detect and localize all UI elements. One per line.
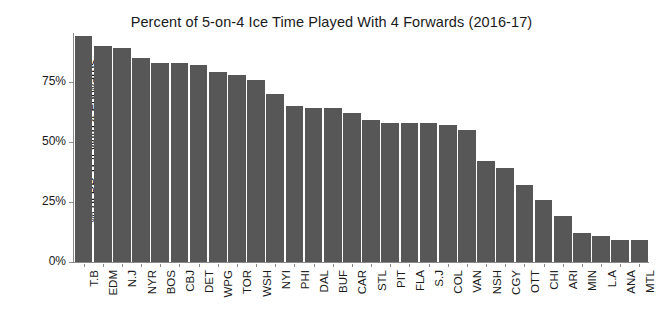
y-tick-label: 50% xyxy=(0,134,66,148)
bar xyxy=(477,161,495,262)
x-tick-mark xyxy=(333,264,334,267)
x-tick-mark xyxy=(179,264,180,267)
x-tick-label: VAN xyxy=(471,270,483,293)
bar xyxy=(381,123,399,262)
x-tick-label: MTL xyxy=(644,270,656,293)
x-tick-label: PHI xyxy=(299,270,311,289)
x-tick-mark xyxy=(429,264,430,267)
bar xyxy=(190,65,208,262)
bar xyxy=(362,120,380,262)
x-tick-label: BUF xyxy=(337,270,349,293)
x-tick-mark xyxy=(505,264,506,267)
x-tick-label: NSH xyxy=(491,270,503,294)
x-tick-mark xyxy=(639,264,640,267)
x-tick-mark xyxy=(409,264,410,267)
x-tick-mark xyxy=(103,264,104,267)
bar xyxy=(113,48,131,262)
bar xyxy=(458,130,476,262)
bar xyxy=(209,72,227,262)
x-tick-mark xyxy=(620,264,621,267)
x-tick-mark xyxy=(544,264,545,267)
x-tick-mark xyxy=(486,264,487,267)
x-tick-label: CAR xyxy=(356,270,368,294)
chart-figure: Percent of 5-on-4 Ice Time Played With 4… xyxy=(0,0,663,317)
x-tick-label: DAL xyxy=(318,270,330,292)
bar xyxy=(94,46,112,262)
x-tick-label: MIN xyxy=(586,270,598,291)
x-tick-label: CBJ xyxy=(184,270,196,292)
x-tick-mark xyxy=(294,264,295,267)
x-tick-mark xyxy=(582,264,583,267)
x-tick-label: TOR xyxy=(241,270,253,294)
x-tick-mark xyxy=(390,264,391,267)
bar xyxy=(631,240,649,262)
x-tick-label: NYR xyxy=(146,270,158,294)
x-tick-mark xyxy=(237,264,238,267)
x-tick-mark xyxy=(467,264,468,267)
bar xyxy=(496,168,514,262)
x-tick-mark xyxy=(371,264,372,267)
bar xyxy=(535,200,553,262)
bar xyxy=(266,94,284,262)
x-tick-label: T.B xyxy=(88,270,100,287)
bar xyxy=(401,123,419,262)
bar xyxy=(573,233,591,262)
x-tick-mark xyxy=(275,264,276,267)
x-tick-mark xyxy=(601,264,602,267)
x-tick-mark xyxy=(122,264,123,267)
bar xyxy=(286,106,304,262)
x-tick-mark xyxy=(524,264,525,267)
x-tick-label: L.A xyxy=(606,270,618,287)
y-tick-mark xyxy=(69,262,73,263)
bar xyxy=(439,125,457,262)
x-tick-mark xyxy=(256,264,257,267)
x-tick-label: S.J xyxy=(433,270,445,287)
y-tick-label: 25% xyxy=(0,194,66,208)
bar xyxy=(516,185,534,262)
x-tick-label: CGY xyxy=(510,270,522,295)
x-tick-label: N.J xyxy=(126,270,138,287)
bar xyxy=(305,108,323,262)
x-tick-label: ARI xyxy=(567,270,579,289)
x-tick-label: DET xyxy=(203,270,215,293)
x-tick-label: COL xyxy=(452,270,464,294)
y-tick-mark xyxy=(69,202,73,203)
bar xyxy=(132,58,150,262)
bar xyxy=(611,240,629,262)
bar-series xyxy=(74,33,649,262)
x-tick-mark xyxy=(314,264,315,267)
bar xyxy=(554,216,572,262)
x-tick-label: PIT xyxy=(395,270,407,288)
x-tick-mark xyxy=(160,264,161,267)
x-tick-label: CHI xyxy=(548,270,560,290)
x-tick-mark xyxy=(141,264,142,267)
x-tick-mark xyxy=(84,264,85,267)
bar xyxy=(592,236,610,262)
x-tick-label: EDM xyxy=(107,270,119,296)
bar xyxy=(228,75,246,262)
bar xyxy=(324,108,342,262)
x-tick-mark xyxy=(448,264,449,267)
bar xyxy=(420,123,438,262)
x-tick-mark xyxy=(352,264,353,267)
x-tick-label: BOS xyxy=(165,270,177,294)
x-axis-line xyxy=(73,262,649,263)
x-tick-mark xyxy=(199,264,200,267)
x-tick-label: STL xyxy=(376,270,388,291)
y-tick-label: 75% xyxy=(0,74,66,88)
x-axis-labels: T.BEDMN.JNYRBOSCBJDETWPGTORWSHNYIPHIDALB… xyxy=(74,264,649,317)
x-tick-label: ANA xyxy=(625,270,637,294)
bar xyxy=(247,80,265,262)
x-tick-label: WPG xyxy=(222,270,234,297)
y-tick-label: 0% xyxy=(0,254,66,268)
bar xyxy=(75,36,93,262)
x-tick-label: OTT xyxy=(529,270,541,293)
y-tick-mark xyxy=(69,82,73,83)
bar xyxy=(171,63,189,262)
x-tick-label: FLA xyxy=(414,270,426,291)
x-tick-label: WSH xyxy=(261,270,273,297)
bar xyxy=(343,113,361,262)
y-tick-mark xyxy=(69,142,73,143)
bar xyxy=(151,63,169,262)
x-tick-mark xyxy=(563,264,564,267)
